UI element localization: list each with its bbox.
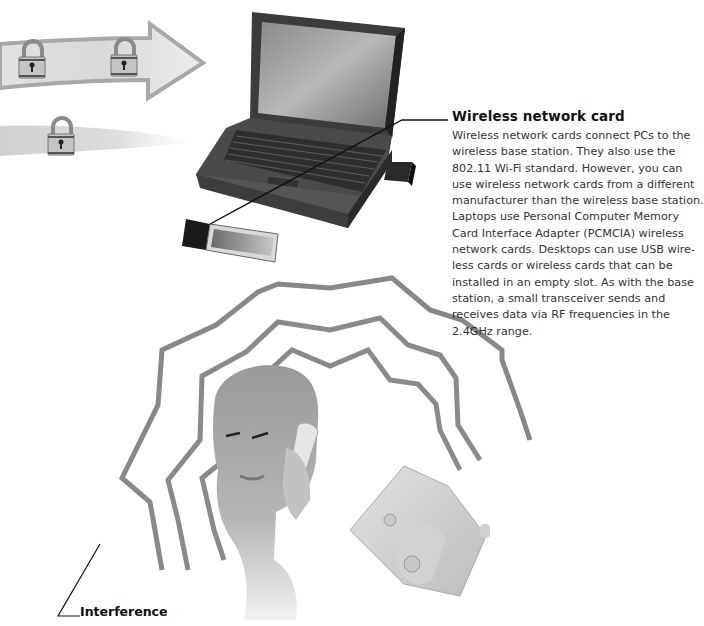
wireless-network-card-title: Wireless network card bbox=[452, 108, 625, 124]
interference-label: Interference bbox=[80, 604, 168, 619]
description-line: receives data via RF frequencies in the bbox=[452, 307, 692, 323]
padlock-icon bbox=[48, 118, 74, 155]
description-line: Laptops use Personal Computer Memory bbox=[452, 209, 692, 225]
cordless-phone-base bbox=[350, 466, 490, 596]
description-line: use wireless network cards from a differ… bbox=[452, 177, 692, 193]
description-line: 802.11 Wi-Fi standard. However, you can bbox=[452, 161, 692, 177]
man-on-phone bbox=[213, 365, 318, 620]
description-line: network cards. Desktops can use USB wire… bbox=[452, 242, 692, 258]
description-line: manufacturer than the wireless base stat… bbox=[452, 193, 692, 209]
pcmcia-wireless-card bbox=[182, 219, 278, 262]
fading-data-stream bbox=[0, 126, 200, 156]
description-line: Card Interface Adapter (PCMCIA) wireless bbox=[452, 226, 692, 242]
description-line: installed in an empty slot. As with the … bbox=[452, 275, 692, 291]
description-line: Wireless network cards connect PCs to th… bbox=[452, 128, 692, 144]
description-line: station, a small transceiver sends and bbox=[452, 291, 692, 307]
description-line: 2.4GHz range. bbox=[452, 324, 692, 340]
laptop bbox=[196, 12, 416, 228]
description-line: wireless base station. They also use the bbox=[452, 144, 692, 160]
description-line: less cards or wireless cards that can be bbox=[452, 258, 692, 274]
wireless-network-card-description: Wireless network cards connect PCs to th… bbox=[452, 128, 692, 340]
